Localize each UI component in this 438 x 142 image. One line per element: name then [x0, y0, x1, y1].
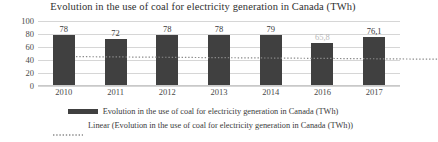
chart-legend: Evolution in the use of coal for electri…: [0, 104, 406, 132]
x-axis: 2010201120122013201420162017: [38, 87, 400, 101]
legend-item-trendline: Linear (Evolution in the use of coal for…: [0, 118, 406, 132]
y-axis-tick-label: 60: [0, 42, 34, 52]
x-axis-tick-label: 2013: [211, 87, 228, 97]
chart-title: Evolution in the use of coal for electri…: [0, 1, 406, 12]
legend-item-label: Evolution in the use of coal for electri…: [103, 107, 339, 116]
legend-item-label: Linear (Evolution in the use of coal for…: [88, 121, 353, 130]
legend-bar-swatch-icon: [68, 109, 98, 114]
y-axis-tick-label: 80: [0, 29, 34, 39]
y-axis-tick-label: 0: [0, 81, 34, 91]
y-axis: 020406080100: [0, 21, 34, 86]
x-axis-tick-label: 2016: [314, 87, 331, 97]
plot-area: 787278787965,876,1: [38, 21, 400, 86]
bar-value-label: 78: [163, 24, 172, 34]
bar-value-label: 78: [215, 24, 224, 34]
x-axis-tick-label: 2014: [262, 87, 279, 97]
bar-value-label: 79: [266, 24, 275, 34]
bar-value-label: 65,8: [315, 32, 330, 42]
bar-value-label: 72: [111, 28, 120, 38]
y-axis-tick-label: 20: [0, 68, 34, 78]
x-axis-tick-label: 2011: [107, 87, 124, 97]
legend-item-bar-series: Evolution in the use of coal for electri…: [0, 104, 406, 118]
x-axis-tick-label: 2017: [366, 87, 383, 97]
gridline: [38, 21, 400, 22]
bar: [53, 35, 75, 86]
x-axis-line: [38, 85, 400, 86]
y-axis-tick-label: 40: [0, 55, 34, 65]
bar-value-label: 76,1: [367, 26, 382, 36]
x-axis-tick-label: 2012: [159, 87, 176, 97]
bar-value-label: 78: [60, 24, 69, 34]
x-axis-tick-label: 2010: [55, 87, 72, 97]
y-axis-tick-label: 100: [0, 16, 34, 26]
legend-dotted-line-icon: [53, 123, 83, 127]
